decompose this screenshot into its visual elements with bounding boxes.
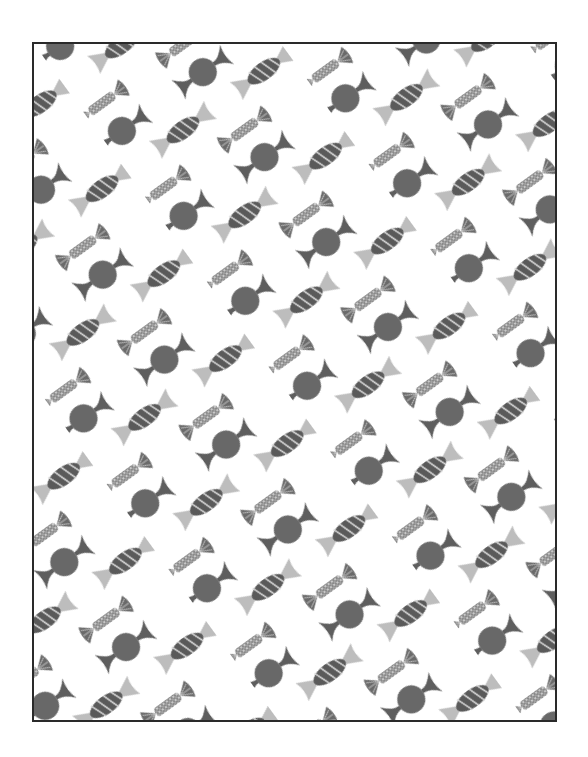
candy-pattern <box>34 44 555 720</box>
pattern-frame: Candy wrapper pattern <box>32 42 557 722</box>
